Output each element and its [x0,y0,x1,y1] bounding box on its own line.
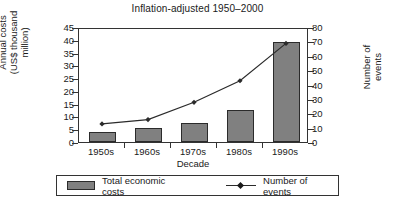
y-axis-left-title-line2: (US$ thousand [8,0,19,100]
y-axis-left-title-line3: million) [19,0,30,100]
y-axis-right-title-line2: events [372,37,383,97]
line-marker-1950s [99,121,104,126]
line-marker-1960s [145,117,150,122]
x-axis-tick-1980s: 1980s [216,147,262,157]
y-axis-right-title: Number of events [361,37,383,97]
line-path-number-of-events [102,43,286,124]
chart-legend: Total economic costs Number of events [56,175,339,196]
x-axis-tick-1960s: 1960s [124,147,170,157]
legend-item-total-economic-costs: Total economic costs [67,175,190,197]
y-axis-left-ticks: 454035302520151050 [52,28,74,143]
chart-title: Inflation-adjusted 1950–2000 [0,3,395,14]
line-marker-1970s [191,100,196,105]
x-axis-tick-1970s: 1970s [170,147,216,157]
chart-container: Inflation-adjusted 1950–2000 Annual cost… [0,0,395,203]
legend-label-number-of-events: Number of events [263,175,338,197]
y-axis-right-ticks: 80706050403020100 [312,28,336,143]
x-axis-tick-1950s: 1950s [78,147,124,157]
plot-area [78,28,308,143]
y-axis-right-title-line1: Number of [361,37,372,97]
legend-label-total-economic-costs: Total economic costs [102,175,190,197]
line-series-layer [79,29,309,144]
x-axis-tick-1990s: 1990s [262,147,308,157]
x-axis-title: Decade [78,158,308,169]
legend-bar-swatch-icon [67,181,95,190]
tickmark-left-0 [72,143,78,144]
legend-line-marker-icon [226,181,256,190]
legend-item-number-of-events: Number of events [226,175,338,197]
y-axis-left-title: Annual costs (US$ thousand million) [0,0,30,100]
y-axis-left-title-line1: Annual costs [0,0,8,100]
